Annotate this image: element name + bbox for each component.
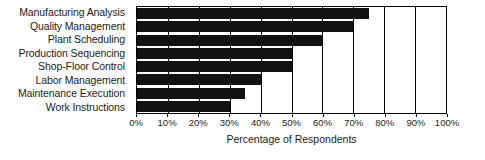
x-tick-label: 40% (251, 117, 270, 129)
category-axis: Manufacturing AnalysisQuality Management… (0, 6, 130, 114)
category-label: Maintenance Execution (0, 87, 130, 101)
bar (137, 88, 245, 99)
category-label: Labor Management (0, 74, 130, 88)
x-tick-label: 50% (282, 117, 301, 129)
bar-row (137, 7, 446, 20)
x-tick-label: 60% (313, 117, 332, 129)
bar-row (137, 87, 446, 100)
bar (137, 8, 369, 19)
bar-row (137, 73, 446, 86)
bar-row (137, 100, 446, 113)
x-tick-label: 80% (375, 117, 394, 129)
x-tick-label: 100% (435, 117, 459, 129)
bar-row (137, 47, 446, 60)
x-axis-title: Percentage of Respondents (136, 133, 447, 145)
x-tick-label: 20% (189, 117, 208, 129)
category-label: Production Sequencing (0, 47, 130, 61)
bar (137, 35, 322, 46)
horizontal-bar-chart: Manufacturing AnalysisQuality Management… (0, 0, 485, 160)
bar (137, 21, 353, 32)
bar (137, 74, 261, 85)
x-axis: 0%10%20%30%40%50%60%70%80%90%100% (136, 114, 447, 134)
x-tick-label: 90% (406, 117, 425, 129)
category-label: Quality Management (0, 20, 130, 34)
bar-row (137, 20, 446, 33)
bars-layer (137, 7, 446, 113)
bar (137, 48, 292, 59)
x-tick-label: 10% (158, 117, 177, 129)
x-tick-label: 30% (220, 117, 239, 129)
bar (137, 61, 292, 72)
category-label: Manufacturing Analysis (0, 6, 130, 20)
bar-row (137, 60, 446, 73)
plot-area (136, 6, 447, 114)
x-tick-label: 70% (344, 117, 363, 129)
category-label: Shop-Floor Control (0, 60, 130, 74)
x-tick-label: 0% (129, 117, 143, 129)
category-label: Plant Scheduling (0, 33, 130, 47)
bar (137, 101, 230, 112)
bar-row (137, 34, 446, 47)
category-label: Work Instructions (0, 101, 130, 115)
